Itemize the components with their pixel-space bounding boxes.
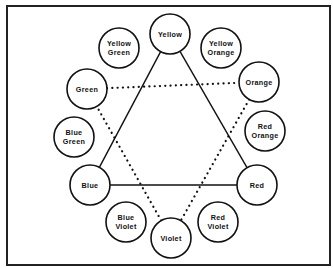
solid-line-blue-yellow <box>99 52 160 168</box>
node-label: Orange <box>252 131 279 140</box>
color-nodes: YellowYellowGreenYellowOrangeGreenOrange… <box>54 14 285 258</box>
node-label: Violet <box>207 222 229 231</box>
node-label: Yellow <box>107 39 131 48</box>
color-wheel-diagram: YellowYellowGreenYellowOrangeGreenOrange… <box>0 0 333 268</box>
node-label: Red <box>258 122 272 131</box>
secondary-triangle <box>97 83 249 221</box>
node-label: Yellow <box>209 39 233 48</box>
node-label: Green <box>63 137 85 146</box>
color-node-blue-green: BlueGreen <box>54 117 94 157</box>
node-label: Orange <box>208 48 235 57</box>
node-label: Red <box>250 181 264 190</box>
solid-line-yellow-red <box>180 51 247 167</box>
node-label: Yellow <box>158 30 182 39</box>
node-label: Blue <box>66 128 83 137</box>
node-label: Orange <box>246 78 273 87</box>
node-label: Blue <box>82 181 99 190</box>
color-node-orange: Orange <box>239 62 279 102</box>
color-node-yellow-green: YellowGreen <box>99 28 139 68</box>
node-label: Blue <box>118 213 135 222</box>
color-node-yellow-orange: YellowOrange <box>201 28 241 68</box>
color-node-green: Green <box>67 69 107 109</box>
color-node-violet: Violet <box>151 218 191 258</box>
primary-triangle <box>99 51 247 185</box>
color-node-blue: Blue <box>70 165 110 205</box>
node-label: Green <box>108 48 130 57</box>
dotted-line-green-orange <box>107 83 239 88</box>
color-node-blue-violet: BlueViolet <box>106 202 146 242</box>
node-label: Green <box>76 85 98 94</box>
node-label: Red <box>211 213 225 222</box>
color-node-red: Red <box>237 165 277 205</box>
color-node-red-orange: RedOrange <box>245 111 285 151</box>
color-node-yellow: Yellow <box>150 14 190 54</box>
color-node-red-violet: RedViolet <box>198 202 238 242</box>
node-label: Violet <box>160 234 182 243</box>
node-label: Violet <box>115 222 137 231</box>
